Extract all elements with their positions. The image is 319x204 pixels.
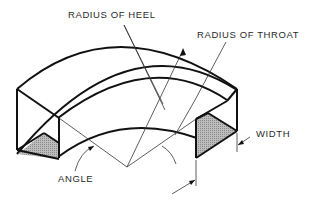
angle-arrowhead	[88, 146, 94, 151]
label-radius-of-throat: RADIUS OF THROAT	[197, 30, 299, 40]
label-radius-of-heel: RADIUS OF HEEL	[68, 10, 156, 20]
label-width: WIDTH	[256, 129, 290, 139]
angle-arc	[75, 146, 94, 171]
label-angle: ANGLE	[58, 174, 93, 184]
left-end-face	[17, 89, 59, 159]
duct-elbow-diagram: RADIUS OF HEEL RADIUS OF THROAT WIDTH AN…	[0, 0, 319, 204]
heel-radius-arrowhead	[180, 48, 186, 56]
right-end-face	[196, 89, 237, 158]
angle-arc-right	[162, 146, 176, 164]
